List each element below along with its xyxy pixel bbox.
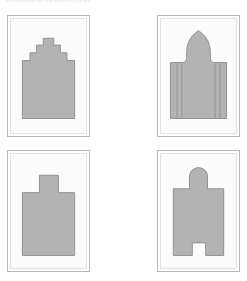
flat-block-with-central-tower-shape — [11, 154, 86, 268]
cruciform-arched-tower-shape — [161, 154, 236, 268]
panel-inner-frame — [160, 153, 237, 269]
stepped-gable-facade-shape — [11, 19, 86, 133]
block-tower-outline — [22, 175, 74, 255]
panel-top-left — [7, 15, 90, 137]
figure-root: architectural elevation plates — [0, 0, 247, 281]
panel-top-right — [157, 15, 240, 137]
gable-outline — [22, 38, 74, 118]
panel-bottom-left — [7, 150, 90, 272]
caption-fragment: architectural elevation plates — [6, 0, 91, 4]
ogee-dome-outline — [170, 31, 226, 119]
panel-bottom-right — [157, 150, 240, 272]
cruciform-outline — [173, 168, 223, 256]
panel-inner-frame — [160, 18, 237, 134]
panel-inner-frame — [10, 18, 87, 134]
ogee-dome-facade-shape — [161, 19, 236, 133]
panel-inner-frame — [10, 153, 87, 269]
